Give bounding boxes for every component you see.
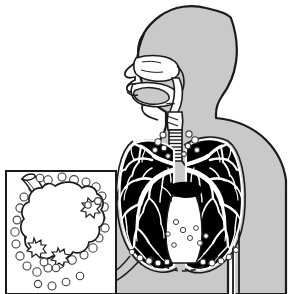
larynx (167, 112, 183, 130)
alveolus-inset-box (6, 171, 116, 294)
respiratory-system-figure: Human respiratory system with alveolus d… (0, 0, 288, 294)
figure-canvas (0, 0, 288, 294)
